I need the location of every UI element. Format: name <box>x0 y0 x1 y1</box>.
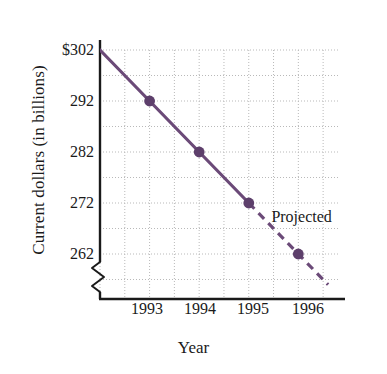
data-point-1994 <box>194 147 205 158</box>
x-axis-tick-labels: 1993 1994 1995 1996 <box>0 300 387 326</box>
x-tick-1996: 1996 <box>292 300 324 318</box>
x-tick-1994: 1994 <box>184 300 216 318</box>
data-point-1995 <box>243 198 254 209</box>
annotation-projected: Projected <box>271 208 331 226</box>
y-axis-title: Current dollars (in billions) <box>29 35 49 285</box>
chart-figure: $302 292 282 272 262 1993 1994 1995 1996… <box>0 0 387 374</box>
x-tick-1993: 1993 <box>131 300 163 318</box>
x-tick-1995: 1995 <box>237 300 269 318</box>
data-point-1996 <box>293 249 304 260</box>
x-axis-title: Year <box>0 338 387 358</box>
data-point-1993 <box>144 96 155 107</box>
